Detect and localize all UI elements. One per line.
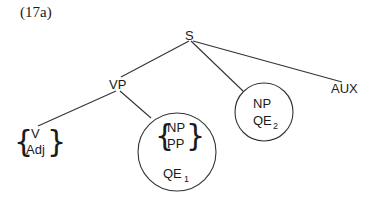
- edge-s-qe2: [191, 41, 243, 91]
- node-vp: VP: [109, 77, 126, 92]
- node-qe2-np: NP: [253, 96, 271, 111]
- qe2-circle: [235, 83, 293, 141]
- edge-vp-qe1: [120, 91, 151, 118]
- node-s: S: [185, 28, 194, 43]
- edge-s-vp: [121, 41, 189, 77]
- node-qe1-pp: PP: [167, 136, 184, 151]
- node-qe1-np: NP: [167, 120, 185, 135]
- node-adj: Adj: [26, 142, 45, 157]
- node-aux: AUX: [331, 81, 358, 96]
- brace-right-np-pp: }: [186, 118, 205, 153]
- edge-s-aux: [193, 41, 342, 82]
- node-qe1-subscript: 1: [184, 174, 189, 184]
- syntax-tree: S VP AUX { V Adj } { NP PP } QE 1 NP QE …: [0, 0, 380, 198]
- node-qe2-label: QE: [253, 113, 272, 128]
- edge-vp-v-adj: [38, 91, 116, 126]
- node-qe2-subscript: 2: [273, 121, 278, 131]
- node-qe1-label: QE: [163, 166, 182, 181]
- node-v: V: [31, 126, 40, 141]
- brace-right-v-adj: }: [47, 124, 66, 159]
